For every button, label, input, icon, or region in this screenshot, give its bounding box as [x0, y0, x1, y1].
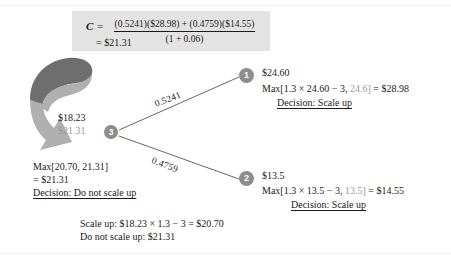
node-1-decision: Decision: Scale up: [277, 96, 352, 109]
node-1-calc-suffix: = $28.98: [371, 83, 409, 94]
node-3-decision: Decision: Do not scale up: [33, 186, 136, 199]
node-2-decision: Decision: Scale up: [291, 198, 366, 211]
node-1-value: $24.60: [262, 66, 290, 79]
tree-node-1[interactable]: 1: [239, 68, 254, 83]
node-3-value: $18.23: [58, 112, 86, 123]
node-2-calculation: Max[1.3 × 13.5 − 3, 13.5] = $14.55: [262, 184, 404, 197]
curved-backward-induction-arrow: [26, 56, 108, 156]
footer-summary: Scale up: $18.23 × 1.3 − 3 = $20.70 Do n…: [80, 217, 224, 243]
edge-3-to-2: [119, 136, 239, 179]
node-2-calc-dim: 13.5]: [345, 185, 366, 196]
node-2-calc-suffix: = $14.55: [366, 185, 404, 196]
edge-3-to-1: [119, 77, 239, 130]
tree-node-1-label: 1: [244, 70, 249, 80]
node-2-calc-prefix: Max[1.3 × 13.5 − 3,: [262, 185, 345, 196]
node-3-value-alt: $21.31: [58, 125, 86, 136]
node-3-max-line: Max[20.70, 21.31]: [33, 160, 136, 173]
node-2-value: $13.5: [262, 169, 285, 182]
node-3-result-line: = $21.31: [33, 173, 136, 186]
diagram-canvas: C = (0.5241)($28.98) + (0.4759)($14.55) …: [0, 0, 451, 263]
footer-line-scale-up: Scale up: $18.23 × 1.3 − 3 = $20.70: [80, 217, 224, 230]
tree-node-3[interactable]: 3: [104, 125, 118, 139]
node-1-calc-prefix: Max[1.3 × 24.60 − 3,: [262, 83, 350, 94]
tree-node-3-label: 3: [109, 127, 114, 137]
tree-node-2[interactable]: 2: [239, 171, 254, 186]
tree-node-2-label: 2: [244, 173, 249, 183]
node-1-calculation: Max[1.3 × 24.60 − 3, 24.6] = $28.98: [262, 82, 409, 95]
footer-line-do-not-scale-up: Do not scale up: $21.31: [80, 230, 224, 243]
node-3-decision-block: Max[20.70, 21.31] = $21.31 Decision: Do …: [33, 160, 136, 199]
node-1-calc-dim: 24.6]: [350, 83, 371, 94]
